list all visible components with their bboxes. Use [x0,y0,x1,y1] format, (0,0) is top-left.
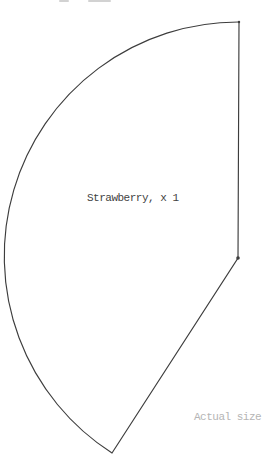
top-corner-dot [238,21,240,23]
scanned-pattern-page: Strawberry, x 1 Actual size [0,0,266,467]
pattern-sector-path [4,22,239,453]
corner-dot [236,256,240,260]
actual-size-note: Actual size [194,411,261,423]
strawberry-pattern-outline [0,0,266,467]
pattern-piece-label: Strawberry, x 1 [87,192,179,204]
